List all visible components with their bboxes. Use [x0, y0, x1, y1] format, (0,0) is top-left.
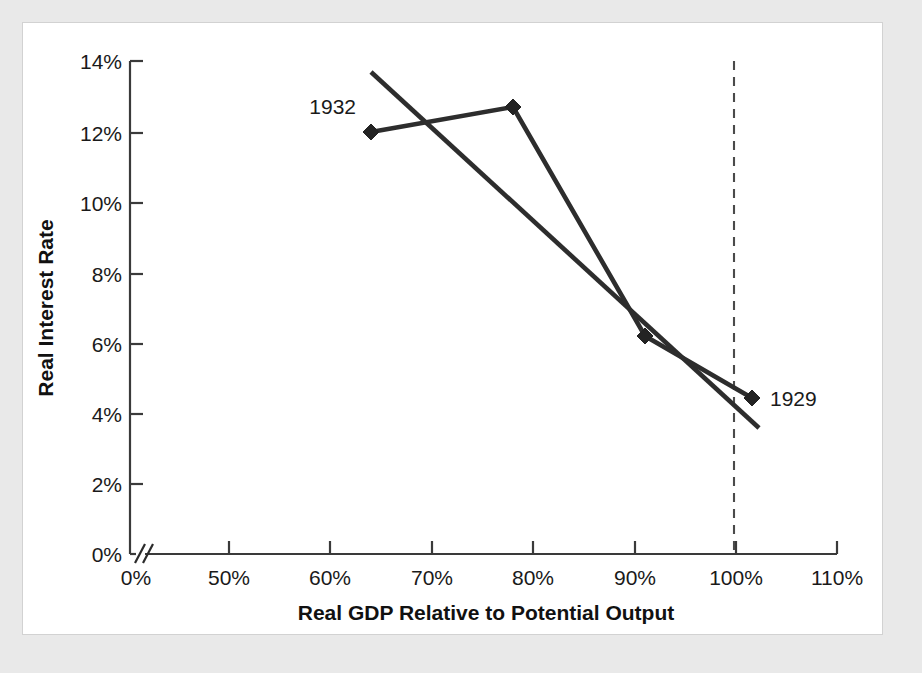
- fitted-trend-line: [371, 72, 759, 428]
- y-tick-label-10: 10%: [80, 192, 122, 215]
- x-tick-label-100: 100%: [709, 566, 763, 589]
- y-axis-tick-labels: 14% 12% 10% 8% 6% 4% 2% 0%: [80, 50, 122, 566]
- x-tick-label-70: 70%: [411, 566, 453, 589]
- data-point-markers: [363, 99, 760, 406]
- x-tick-label-0: 0%: [121, 566, 151, 589]
- x-tick-label-110: 110%: [811, 566, 863, 589]
- data-point-marker-1932[interactable]: [363, 124, 379, 140]
- x-tick-label-80: 80%: [512, 566, 554, 589]
- x-axis-title: Real GDP Relative to Potential Output: [298, 601, 675, 624]
- y-tick-label-6: 6%: [92, 333, 122, 356]
- x-tick-label-50: 50%: [208, 566, 250, 589]
- y-tick-label-0: 0%: [92, 543, 122, 566]
- chart-panel: 14% 12% 10% 8% 6% 4% 2% 0% 0%: [22, 22, 883, 635]
- x-axis-tick-labels: 0% 50% 60% 70% 80% 90% 100% 110%: [121, 566, 863, 589]
- annotation-1932: 1932: [309, 95, 356, 118]
- x-axis-ticks: [229, 541, 837, 554]
- y-tick-label-12: 12%: [80, 122, 122, 145]
- x-tick-label-90: 90%: [614, 566, 656, 589]
- annotation-1929: 1929: [770, 387, 817, 410]
- y-axis-ticks: [130, 61, 143, 484]
- y-tick-label-2: 2%: [92, 473, 122, 496]
- y-tick-label-8: 8%: [92, 263, 122, 286]
- observed-path-line: [371, 107, 752, 398]
- figure-outer-background: 14% 12% 10% 8% 6% 4% 2% 0% 0%: [0, 0, 922, 673]
- y-tick-label-4: 4%: [92, 403, 122, 426]
- y-axis-title: Real Interest Rate: [34, 219, 57, 396]
- x-tick-label-60: 60%: [309, 566, 351, 589]
- y-tick-label-14: 14%: [80, 50, 122, 73]
- chart-plot-area: 14% 12% 10% 8% 6% 4% 2% 0% 0%: [23, 23, 882, 634]
